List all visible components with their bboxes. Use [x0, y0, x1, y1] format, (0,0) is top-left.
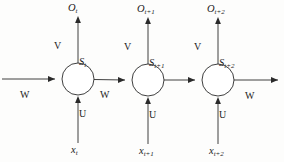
diagram-canvas: [0, 0, 284, 162]
input-label-t2: xt+2: [209, 146, 224, 158]
input-edge-t2: [215, 97, 221, 144]
recurrent-edge-in-t: [2, 76, 55, 82]
timestep-group-t1: [132, 17, 164, 144]
recurrent-edge-t1-to-t2: [164, 77, 195, 83]
output-label-t1: Ot+1: [137, 4, 155, 16]
input-edge-t: [75, 96, 81, 143]
output-label-t: Ot: [68, 3, 78, 15]
output-weight-label-t: V: [54, 41, 61, 51]
recurrent-weight-label-left: W: [20, 90, 30, 100]
timestep-group-t: [2, 16, 94, 143]
output-weight-label-t1: V: [124, 42, 131, 52]
state-label-t2: St+2: [219, 58, 234, 70]
input-edge-t1: [145, 97, 151, 144]
recurrent-edge-t-to-t1: [94, 77, 125, 83]
input-label-t1: xt+1: [139, 146, 154, 158]
input-weight-label-t: U: [79, 109, 86, 119]
input-weight-label-t2: U: [219, 110, 226, 120]
recurrent-weight-label-mid: W: [100, 90, 110, 100]
state-node-t: [62, 63, 94, 95]
state-label-t: St: [79, 57, 86, 69]
timestep-group-t2: [202, 17, 234, 144]
recurrent-edge-out-t2: [234, 77, 278, 83]
input-weight-label-t1: U: [149, 110, 156, 120]
output-label-t2: Ot+2: [207, 4, 225, 16]
recurrent-weight-label-right: W: [245, 91, 255, 101]
state-label-t1: St+1: [149, 58, 164, 70]
output-weight-label-t2: V: [194, 42, 201, 52]
input-label-t: xt: [71, 145, 78, 157]
rnn-unfolded-diagram: Ot Ot+1 Ot+2 V V V St St+1 St+2 W W W U …: [0, 0, 284, 162]
